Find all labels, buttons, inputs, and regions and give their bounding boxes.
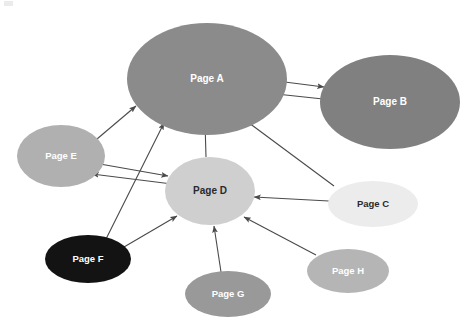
edge-e-to-a <box>97 106 136 139</box>
node-page-d[interactable]: Page D <box>165 157 255 225</box>
node-page-c[interactable]: Page C <box>328 181 418 227</box>
edge-g-to-d <box>214 226 221 272</box>
node-page-f[interactable]: Page F <box>45 235 131 283</box>
node-page-e[interactable]: Page E <box>17 125 105 187</box>
node-shape-g[interactable] <box>185 271 271 317</box>
nodes-layer: Page APage BPage CPage DPage EPage FPage… <box>17 23 460 317</box>
node-shape-c[interactable] <box>328 181 418 227</box>
edge-f-to-d <box>124 216 177 247</box>
edge-e-to-d <box>100 164 168 176</box>
node-page-a[interactable]: Page A <box>127 23 287 135</box>
page-link-graph: Page APage BPage CPage DPage EPage FPage… <box>0 0 473 328</box>
node-shape-h[interactable] <box>307 249 389 293</box>
edge-f-to-a <box>106 123 164 239</box>
node-shape-f[interactable] <box>45 235 131 283</box>
node-shape-d[interactable] <box>165 157 255 225</box>
edge-h-to-d <box>244 217 316 255</box>
node-page-b[interactable]: Page B <box>320 55 460 149</box>
edge-c-to-d <box>254 197 329 201</box>
node-page-h[interactable]: Page H <box>307 249 389 293</box>
node-shape-a[interactable] <box>127 23 287 135</box>
node-shape-e[interactable] <box>17 125 105 187</box>
edge-c-to-a <box>241 117 334 186</box>
node-page-g[interactable]: Page G <box>185 271 271 317</box>
diagram-canvas: Page APage BPage CPage DPage EPage FPage… <box>0 0 473 328</box>
edge-d-to-e <box>92 174 172 184</box>
node-shape-b[interactable] <box>320 55 460 149</box>
